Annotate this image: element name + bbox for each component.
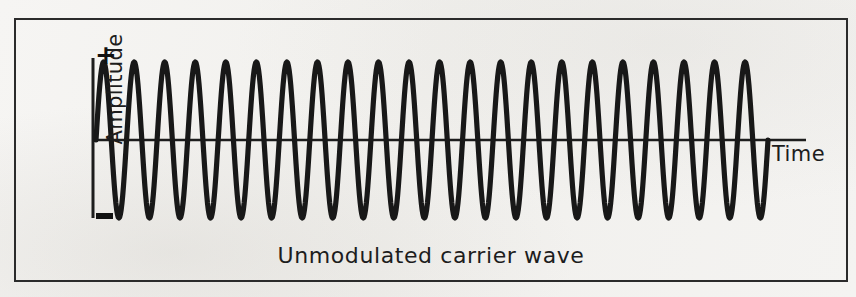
figure-page: Amplitude Time + Unmodulated carrier wav…: [0, 0, 856, 297]
x-axis-label: Time: [772, 142, 825, 166]
negative-polarity-marker: [96, 213, 113, 219]
figure-caption: Unmodulated carrier wave: [14, 243, 848, 269]
positive-polarity-marker: +: [95, 44, 117, 66]
